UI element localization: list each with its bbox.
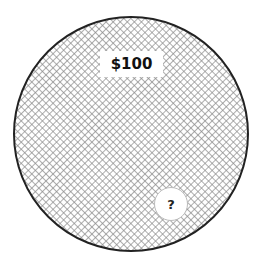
- unknown-value-circle: ?: [154, 187, 188, 221]
- value-label: $100: [100, 51, 163, 77]
- diagram-canvas: [0, 0, 262, 267]
